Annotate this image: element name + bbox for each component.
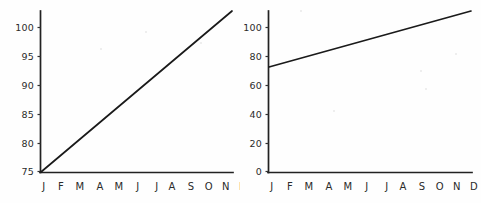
left-xtick-label-mar: M bbox=[75, 181, 84, 192]
right-xtick-label-jun: J bbox=[364, 181, 368, 192]
left-xtick-label-may: M bbox=[114, 181, 123, 192]
right-ytick-label-0: 0 bbox=[256, 166, 262, 177]
left-xtick-label-aug: A bbox=[168, 181, 175, 192]
right-xtick-label-nov: N bbox=[453, 181, 461, 192]
left-ytick-label-95: 95 bbox=[22, 51, 35, 62]
right-chart-svg: 100 80 60 40 20 0 J F M A M J J A S O N … bbox=[240, 0, 481, 203]
right-ytick-label-20: 20 bbox=[250, 138, 263, 149]
left-ytick-label-80: 80 bbox=[22, 138, 35, 149]
left-xtick-label-jan: J bbox=[41, 181, 45, 192]
left-xtick-label-jun: J bbox=[135, 181, 139, 192]
right-xtick-label-feb: F bbox=[287, 181, 293, 192]
right-data-line bbox=[269, 11, 471, 67]
left-xtick-label-feb: F bbox=[58, 181, 64, 192]
right-xtick-label-jul: J bbox=[384, 181, 388, 192]
right-xtick-label-apr: A bbox=[325, 181, 332, 192]
right-ytick-label-40: 40 bbox=[250, 109, 263, 120]
left-xtick-label-apr: A bbox=[96, 181, 103, 192]
chart-panel-right: 100 80 60 40 20 0 J F M A M J J A S O N … bbox=[240, 0, 481, 203]
left-xtick-label-nov: N bbox=[222, 181, 230, 192]
left-xtick-label-oct: O bbox=[205, 181, 213, 192]
right-ytick-label-60: 60 bbox=[250, 80, 263, 91]
right-xtick-label-aug: A bbox=[399, 181, 406, 192]
left-chart-svg: 100 95 90 85 80 75 J F M A M J J A S O N… bbox=[0, 0, 240, 203]
left-ytick-label-85: 85 bbox=[22, 109, 35, 120]
right-ytick-label-100: 100 bbox=[243, 22, 262, 33]
left-data-line bbox=[41, 11, 232, 172]
left-xtick-label-jul: J bbox=[154, 181, 158, 192]
right-xtick-label-sep: S bbox=[419, 181, 426, 192]
left-ytick-label-100: 100 bbox=[15, 22, 34, 33]
left-ytick-label-75: 75 bbox=[22, 166, 35, 177]
two-panel-line-chart-figure: 100 95 90 85 80 75 J F M A M J J A S O N… bbox=[0, 0, 481, 203]
right-xtick-label-may: M bbox=[343, 181, 352, 192]
left-xtick-label-sep: S bbox=[188, 181, 195, 192]
right-ytick-label-80: 80 bbox=[250, 51, 263, 62]
right-xtick-label-oct: O bbox=[436, 181, 444, 192]
right-xtick-label-jan: J bbox=[269, 181, 273, 192]
right-xtick-label-dec: D bbox=[470, 181, 478, 192]
left-ytick-label-90: 90 bbox=[22, 80, 35, 91]
right-xtick-label-mar: M bbox=[304, 181, 313, 192]
chart-panel-left: 100 95 90 85 80 75 J F M A M J J A S O N… bbox=[0, 0, 240, 203]
